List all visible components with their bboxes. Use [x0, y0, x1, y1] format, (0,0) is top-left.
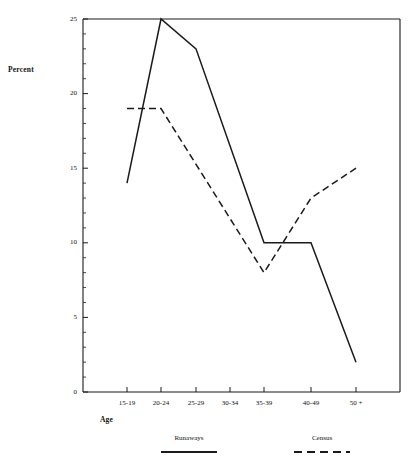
series-line-census: [127, 109, 356, 273]
x-axis-ticks: [127, 387, 356, 392]
y-tick-label: 5: [55, 313, 77, 321]
x-tick-label: 30-34: [222, 399, 238, 407]
x-tick-label: 25-29: [188, 399, 204, 407]
data-series-layer: [127, 19, 356, 362]
x-tick-label: 40-49: [303, 399, 319, 407]
axis-frame: [83, 19, 400, 392]
y-tick-label: 20: [55, 89, 77, 97]
y-tick-label: 25: [55, 15, 77, 23]
y-axis-ticks: [83, 19, 88, 392]
chart-figure: Percent Age 0510152025 15-1920-2425-2930…: [0, 0, 414, 461]
series-line-runaways: [127, 19, 356, 362]
y-tick-label: 0: [55, 388, 77, 396]
legend-label-runaways: Runaways: [174, 434, 203, 442]
x-tick-label: 20-24: [153, 399, 169, 407]
x-tick-label: 50 +: [350, 399, 363, 407]
y-tick-label: 15: [55, 164, 77, 172]
legend-label-census: Census: [312, 434, 332, 442]
x-tick-label: 15-19: [119, 399, 135, 407]
y-tick-label: 10: [55, 238, 77, 246]
x-tick-label: 35-39: [256, 399, 272, 407]
